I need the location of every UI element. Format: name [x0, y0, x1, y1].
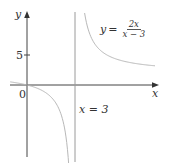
asymptote-label: x = 3	[79, 104, 108, 115]
graph-figure: y 5 0 x x = 3 y = 2x x − 3	[0, 0, 171, 163]
y-tick-label-5: 5	[16, 50, 23, 61]
origin-label: 0	[19, 89, 26, 100]
equation-lhs: y	[100, 23, 106, 36]
y-axis-label: y	[15, 9, 21, 20]
equation-label: y = 2x x − 3	[100, 20, 147, 39]
equation-equals: =	[108, 23, 117, 36]
equation-denominator: x − 3	[120, 30, 147, 39]
y-axis-arrow-icon	[24, 11, 30, 18]
equation-fraction: 2x x − 3	[120, 20, 147, 39]
x-axis-label: x	[152, 88, 158, 99]
